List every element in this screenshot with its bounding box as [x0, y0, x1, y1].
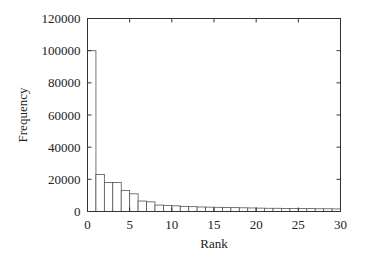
histogram-bar [121, 191, 129, 212]
histogram-bar [206, 207, 214, 211]
y-axis-label: Frequency [15, 87, 30, 142]
x-tick-label: 15 [208, 217, 221, 232]
y-tick-label: 100000 [42, 43, 81, 58]
histogram-bar [180, 206, 188, 211]
histogram-bar [197, 207, 205, 212]
histogram-bar [189, 207, 197, 212]
histogram-bar [231, 208, 239, 212]
histogram-bar [113, 183, 121, 212]
y-axis-ticks: 020000400006000080000100000120000 [42, 11, 341, 219]
histogram-bar [155, 205, 163, 211]
y-tick-label: 80000 [48, 75, 81, 90]
histogram-bar [138, 201, 146, 211]
histogram-bar [163, 205, 171, 211]
histogram-bar [88, 51, 96, 212]
y-tick-label: 20000 [48, 172, 81, 187]
histogram-bar [96, 175, 104, 212]
x-tick-label: 10 [165, 217, 178, 232]
x-tick-label: 20 [250, 217, 263, 232]
histogram-bar [248, 208, 256, 212]
y-tick-label: 40000 [48, 140, 81, 155]
x-tick-label: 30 [334, 217, 347, 232]
x-tick-label: 5 [126, 217, 133, 232]
histogram-bar [214, 207, 222, 211]
histogram-bars [88, 51, 341, 212]
histogram-bar [256, 208, 264, 211]
histogram-bar [239, 208, 247, 212]
histogram-bar [130, 194, 138, 212]
x-tick-label: 0 [84, 217, 91, 232]
histogram-bar [104, 183, 112, 212]
rank-frequency-histogram: 051015202530 020000400006000080000100000… [0, 0, 369, 263]
histogram-bar [172, 206, 180, 212]
x-axis-label: Rank [200, 236, 228, 251]
y-tick-label: 120000 [42, 11, 81, 26]
x-tick-label: 25 [292, 217, 305, 232]
histogram-bar [222, 207, 230, 211]
histogram-bar [147, 202, 155, 212]
plot-frame [88, 19, 341, 212]
y-tick-label: 60000 [48, 108, 81, 123]
y-tick-label: 0 [74, 204, 81, 219]
